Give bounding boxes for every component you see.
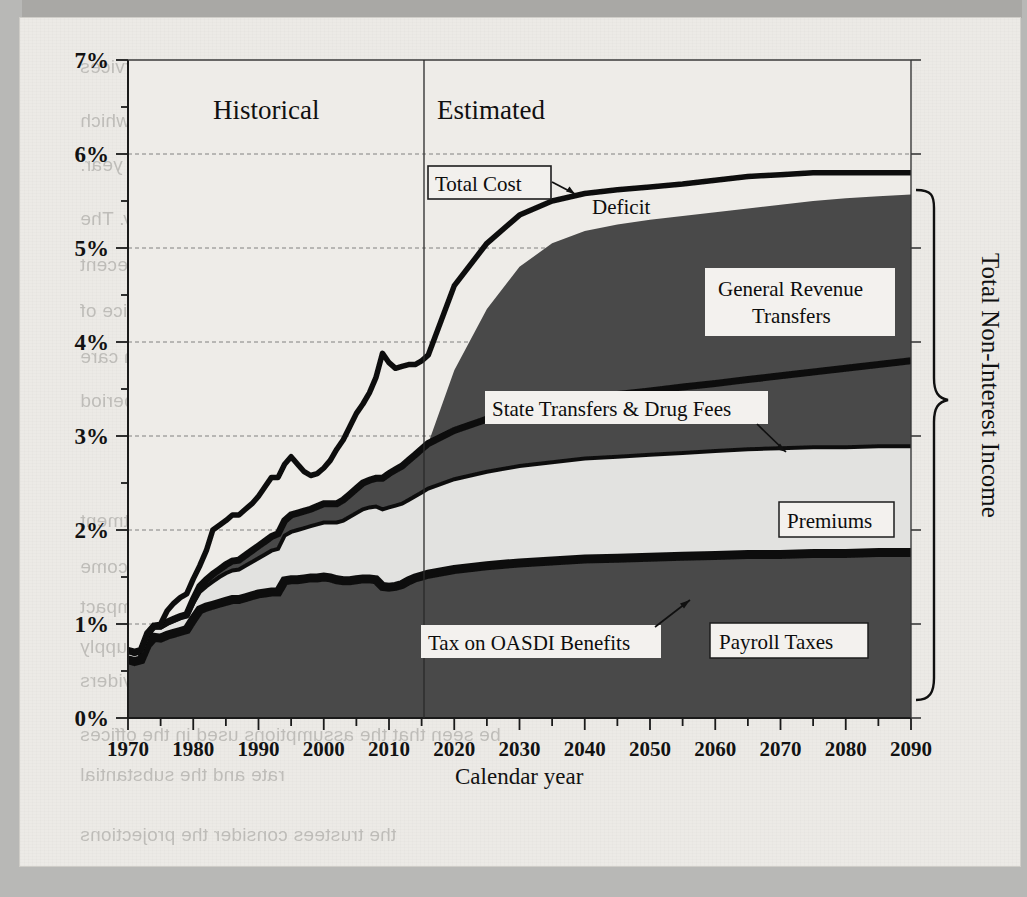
- x-tick-marks: [128, 718, 911, 730]
- x-tick-label: 1990: [238, 737, 280, 761]
- y-tick-label: 2%: [75, 518, 110, 543]
- y-tick-label: 4%: [75, 330, 110, 355]
- y-tick-label: 1%: [75, 612, 110, 637]
- annotation-grt-line2: Transfers: [752, 304, 831, 328]
- annotation-payroll-taxes-label: Payroll Taxes: [719, 630, 833, 654]
- annotation-payroll-taxes: Payroll Taxes: [710, 623, 868, 658]
- annotation-premiums: Premiums: [779, 502, 894, 537]
- right-axis-bracket-label: Total Non-Interest Income: [977, 253, 1004, 518]
- era-label-historical: Historical: [213, 95, 319, 125]
- x-tick-label: 2070: [760, 737, 802, 761]
- x-tick-labels: 1970198019902000201020202030204020502060…: [107, 737, 932, 761]
- annotation-toasdi-label: Tax on OASDI Benefits: [428, 631, 630, 655]
- figure-root: utable to a reduction in the annual paym…: [0, 0, 1027, 897]
- y-tick-label: 0%: [75, 706, 110, 731]
- era-label-estimated: Estimated: [437, 95, 545, 125]
- y-tick-label: 3%: [75, 424, 110, 449]
- x-tick-label: 2080: [825, 737, 867, 761]
- chart-svg: 0%1%2%3%4%5%6%7% 19701980199020002010202…: [0, 0, 1027, 897]
- y-tick-marks: [116, 60, 128, 718]
- annotation-grt-line1: General Revenue: [718, 277, 863, 301]
- y-tick-label: 6%: [75, 142, 110, 167]
- annotation-general-revenue-transfers: General Revenue Transfers: [705, 268, 895, 336]
- y-tick-label: 7%: [75, 48, 110, 73]
- annotation-premiums-label: Premiums: [787, 509, 872, 533]
- x-tick-label: 2010: [368, 737, 410, 761]
- x-tick-label: 2030: [499, 737, 541, 761]
- y-tick-label: 5%: [75, 236, 110, 261]
- annotation-deficit: Deficit: [592, 195, 650, 219]
- x-tick-label: 2060: [694, 737, 736, 761]
- x-tick-label: 2050: [629, 737, 671, 761]
- annotation-std-label: State Transfers & Drug Fees: [492, 397, 731, 421]
- x-tick-label: 2020: [433, 737, 475, 761]
- chart-canvas: 0%1%2%3%4%5%6%7% 19701980199020002010202…: [0, 0, 1027, 897]
- x-tick-label: 2000: [303, 737, 345, 761]
- right-axis-tick-marks: [911, 60, 921, 718]
- x-tick-label: 2040: [564, 737, 606, 761]
- annotation-total-cost-label: Total Cost: [435, 172, 522, 196]
- y-tick-labels: 0%1%2%3%4%5%6%7%: [75, 48, 110, 731]
- x-tick-label: 2090: [890, 737, 932, 761]
- x-tick-label: 1970: [107, 737, 149, 761]
- x-tick-label: 1980: [172, 737, 214, 761]
- x-axis-title: Calendar year: [455, 764, 584, 789]
